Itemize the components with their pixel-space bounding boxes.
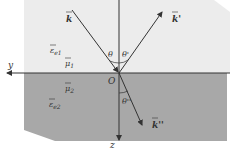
z-axis-label: z	[109, 140, 115, 150]
transmitted-wave-label: k''	[152, 120, 164, 130]
incident-angle-label: θ	[108, 50, 113, 59]
origin-label: O	[108, 76, 116, 86]
transmitted-angle-label: θ''	[122, 97, 131, 106]
diagram: y z O k k' k'' θ θ' θ'' εe1 μ1 μ2 εe2	[0, 0, 237, 151]
y-axis-label: y	[7, 60, 14, 70]
reflected-angle-label: θ'	[122, 50, 129, 59]
reflected-wave-label: k'	[172, 14, 181, 24]
incident-wave-label: k	[66, 14, 72, 24]
